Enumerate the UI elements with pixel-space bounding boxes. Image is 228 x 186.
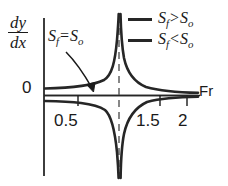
legend-operator-1: <: [169, 30, 180, 47]
origin-label: 0: [22, 79, 31, 96]
figure-container: dy dx 0 Fr 0.5 1.5 2 Sf=So Sf>So Sf<So: [0, 0, 228, 186]
legend-operator-0: >: [169, 9, 180, 26]
legend-symbol-1-2: S: [180, 30, 188, 47]
sf-equals-so-annotation: Sf=So: [48, 28, 84, 47]
legend-swatch-icon-1: [128, 39, 152, 42]
annotation-subscript-2: o: [78, 35, 83, 47]
annotation-leader-line: [66, 52, 92, 88]
legend-item-sf-gt-so: Sf>So: [128, 9, 228, 30]
legend-subscript-1-2: o: [188, 39, 193, 51]
y-axis-label-numerator: dy: [8, 14, 28, 33]
annotation-operator: =: [59, 27, 70, 44]
legend-label-0: Sf>So: [158, 9, 194, 29]
annotation-symbol-2: S: [70, 27, 78, 44]
legend-item-sf-lt-so: Sf<So: [128, 30, 228, 51]
legend-label-1: Sf<So: [158, 30, 194, 50]
y-axis-label: dy dx: [8, 14, 28, 51]
annotation-symbol-1: S: [48, 27, 56, 44]
x-tick-label-0: 0.5: [54, 112, 78, 129]
curve-upper-left: [45, 14, 119, 89]
x-axis-label: Fr: [199, 83, 213, 98]
legend-swatch-icon-0: [128, 18, 152, 21]
legend-symbol-1-1: S: [158, 30, 166, 47]
y-axis-label-denominator: dx: [8, 33, 28, 51]
curve-lower-right: [121, 97, 198, 178]
x-tick-label-2: 2: [178, 112, 187, 129]
annotation-arrowhead-icon: [87, 83, 96, 93]
legend-subscript-0-2: o: [188, 18, 193, 30]
legend-symbol-0-2: S: [180, 9, 188, 26]
x-tick-label-1: 1.5: [136, 112, 160, 129]
legend: Sf>So Sf<So: [128, 9, 228, 51]
legend-symbol-0-1: S: [158, 9, 166, 26]
